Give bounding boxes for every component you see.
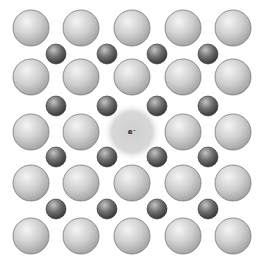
small-ion xyxy=(46,147,66,167)
small-ion xyxy=(198,44,218,64)
large-ion xyxy=(165,10,201,46)
large-ion xyxy=(165,59,201,95)
small-ion xyxy=(97,199,117,219)
large-ion xyxy=(63,114,99,150)
large-ion xyxy=(63,59,99,95)
large-ion xyxy=(215,165,251,201)
large-ion xyxy=(114,10,150,46)
small-ion xyxy=(147,147,167,167)
large-ion xyxy=(165,165,201,201)
large-ion xyxy=(215,218,251,254)
large-ion xyxy=(165,218,201,254)
large-ion xyxy=(13,165,49,201)
small-ion xyxy=(147,44,167,64)
large-ion xyxy=(63,165,99,201)
large-ion xyxy=(114,59,150,95)
electron-label: e⁻ xyxy=(128,128,137,136)
large-ion xyxy=(13,59,49,95)
small-ion xyxy=(46,199,66,219)
large-ion xyxy=(13,10,49,46)
lattice-diagram: e⁻ xyxy=(0,0,260,264)
small-ion xyxy=(147,96,167,116)
small-ion xyxy=(46,44,66,64)
large-ion xyxy=(114,165,150,201)
large-ion xyxy=(215,114,251,150)
small-ion xyxy=(97,147,117,167)
labels: e⁻ xyxy=(128,128,137,136)
small-ion xyxy=(46,96,66,116)
small-ion xyxy=(198,199,218,219)
large-ion xyxy=(215,59,251,95)
large-ion xyxy=(13,218,49,254)
small-ion xyxy=(198,96,218,116)
large-ion xyxy=(215,10,251,46)
large-ion xyxy=(165,114,201,150)
small-ion xyxy=(198,147,218,167)
large-ion xyxy=(13,114,49,150)
large-ion xyxy=(63,218,99,254)
large-ion xyxy=(114,218,150,254)
lattice-canvas: e⁻ xyxy=(0,0,260,264)
small-ion xyxy=(147,199,167,219)
small-ion xyxy=(97,96,117,116)
large-ion xyxy=(63,10,99,46)
small-ion xyxy=(97,44,117,64)
